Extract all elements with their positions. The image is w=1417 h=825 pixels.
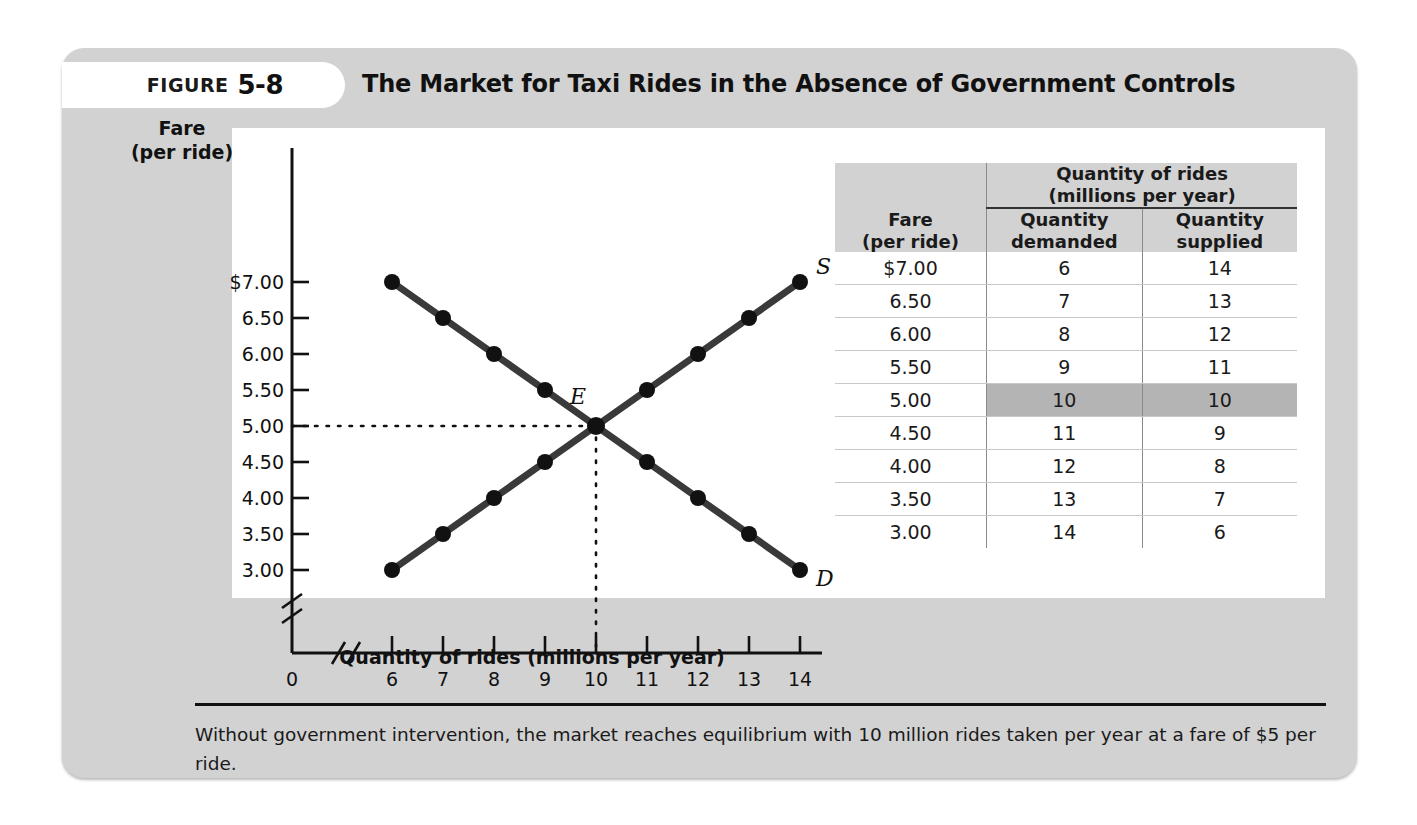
table-header-supplied-line1: Quantity [1143, 209, 1297, 231]
figure-number: 5-8 [238, 70, 283, 100]
table-cell-quantity-demanded: 11 [987, 417, 1143, 450]
table-cell-fare: 3.00 [835, 516, 987, 549]
x-tick-label: 12 [686, 668, 710, 690]
table-header-fare-line2: (per ride) [835, 231, 986, 253]
table-header-quantity-supplied: Quantity supplied [1142, 208, 1297, 252]
y-axis-tick-labels: $7.00 6.50 6.00 5.50 5.00 4.50 4.00 3.50… [230, 271, 284, 581]
supply-demand-chart: $7.00 6.50 6.00 5.50 5.00 4.50 4.00 3.50… [192, 108, 892, 728]
table-cell-quantity-supplied: 12 [1142, 318, 1297, 351]
table-cell-quantity-supplied: 9 [1142, 417, 1297, 450]
table-header-demanded-line2: demanded [987, 231, 1142, 253]
table-row: 5.001010 [835, 384, 1297, 417]
table-row: 4.00128 [835, 450, 1297, 483]
table-header-quantity-group: Quantity of rides (millions per year) [987, 163, 1297, 208]
table-cell-fare: 6.50 [835, 285, 987, 318]
figure-caption: Without government intervention, the mar… [195, 720, 1326, 778]
table-header-supplied-line2: supplied [1143, 231, 1297, 253]
table-cell-fare: 4.50 [835, 417, 987, 450]
x-tick-label: 11 [635, 668, 659, 690]
table-cell-quantity-supplied: 13 [1142, 285, 1297, 318]
table-cell-fare: 5.00 [835, 384, 987, 417]
table-header-fare: Fare (per ride) [835, 163, 987, 252]
table-cell-fare: 4.00 [835, 450, 987, 483]
x-axis-origin-label: 0 [286, 668, 298, 690]
x-tick-label: 14 [788, 668, 812, 690]
table-header-demanded-line1: Quantity [987, 209, 1142, 231]
table-cell-fare: $7.00 [835, 252, 987, 285]
equilibrium-point-marker [587, 417, 605, 435]
table-group-header-row: Fare (per ride) Quantity of rides (milli… [835, 163, 1297, 208]
table-cell-quantity-demanded: 9 [987, 351, 1143, 384]
table-cell-quantity-supplied: 14 [1142, 252, 1297, 285]
table-cell-quantity-supplied: 8 [1142, 450, 1297, 483]
x-tick-label: 9 [539, 668, 551, 690]
table-cell-quantity-supplied: 11 [1142, 351, 1297, 384]
table-header-quantity-group-line2: (millions per year) [987, 185, 1297, 207]
x-axis-title: Quantity of rides (millions per year) [232, 646, 832, 668]
table-cell-quantity-demanded: 13 [987, 483, 1143, 516]
y-tick-label: 3.50 [242, 523, 284, 545]
table-head: Fare (per ride) Quantity of rides (milli… [835, 163, 1297, 252]
y-tick-label: 4.50 [242, 451, 284, 473]
x-tick-label: 6 [386, 668, 398, 690]
table-cell-fare: 3.50 [835, 483, 987, 516]
table-header-quantity-demanded: Quantity demanded [987, 208, 1143, 252]
table-row: 6.50713 [835, 285, 1297, 318]
table-cell-quantity-demanded: 7 [987, 285, 1143, 318]
y-tick-label: 5.50 [242, 379, 284, 401]
table-body: $7.006146.507136.008125.509115.0010104.5… [835, 252, 1297, 548]
y-tick-label: 5.00 [242, 415, 284, 437]
table-cell-quantity-demanded: 14 [987, 516, 1143, 549]
table-row: 4.50119 [835, 417, 1297, 450]
table-row: 6.00812 [835, 318, 1297, 351]
table-cell-fare: 6.00 [835, 318, 987, 351]
table-cell-quantity-supplied: 6 [1142, 516, 1297, 549]
y-tick-label: 3.00 [242, 559, 284, 581]
table-row: 3.00146 [835, 516, 1297, 549]
supply-demand-table: Fare (per ride) Quantity of rides (milli… [835, 163, 1297, 548]
y-tick-label: $7.00 [230, 271, 284, 293]
equilibrium-label: E [569, 384, 586, 409]
table-header-quantity-group-line1: Quantity of rides [987, 163, 1297, 185]
table-row: $7.00614 [835, 252, 1297, 285]
x-tick-label: 10 [584, 668, 608, 690]
figure-number-tab: Figure 5-8 [62, 62, 345, 108]
x-axis-tick-labels: 6 7 8 9 10 11 12 13 14 0 [286, 668, 812, 690]
table-header-fare-line1: Fare [835, 209, 986, 231]
figure-card: Figure 5-8 The Market for Taxi Rides in … [62, 48, 1357, 778]
y-tick-label: 4.00 [242, 487, 284, 509]
supply-curve-label: S [816, 254, 831, 279]
demand-curve-label: D [815, 566, 834, 591]
table-row: 3.50137 [835, 483, 1297, 516]
table-cell-quantity-demanded: 10 [987, 384, 1143, 417]
table-cell-quantity-demanded: 8 [987, 318, 1143, 351]
x-tick-label: 7 [437, 668, 449, 690]
figure-title: The Market for Taxi Rides in the Absence… [362, 70, 1235, 98]
table-row: 5.50911 [835, 351, 1297, 384]
table-cell-quantity-supplied: 7 [1142, 483, 1297, 516]
x-tick-label: 13 [737, 668, 761, 690]
table-cell-fare: 5.50 [835, 351, 987, 384]
figure-label-word: Figure [147, 74, 229, 96]
table-cell-quantity-demanded: 6 [987, 252, 1143, 285]
x-tick-label: 8 [488, 668, 500, 690]
y-tick-label: 6.00 [242, 343, 284, 365]
caption-divider [195, 703, 1326, 706]
y-tick-label: 6.50 [242, 307, 284, 329]
table-cell-quantity-supplied: 10 [1142, 384, 1297, 417]
table-cell-quantity-demanded: 12 [987, 450, 1143, 483]
